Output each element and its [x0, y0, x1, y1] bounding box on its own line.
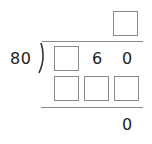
product-box-1[interactable]	[54, 76, 79, 101]
subtraction-line	[41, 107, 143, 108]
division-bracket-icon	[36, 42, 46, 74]
remainder-digit: 0	[117, 115, 137, 135]
division-bar	[42, 41, 143, 42]
quotient-answer-box[interactable]	[113, 11, 138, 36]
product-box-2[interactable]	[84, 76, 109, 101]
divisor: 80	[10, 49, 31, 69]
dividend-tens-digit: 6	[87, 49, 107, 69]
dividend-hundreds-box[interactable]	[54, 46, 79, 71]
dividend-ones-digit: 0	[117, 49, 137, 69]
product-box-3[interactable]	[114, 76, 139, 101]
